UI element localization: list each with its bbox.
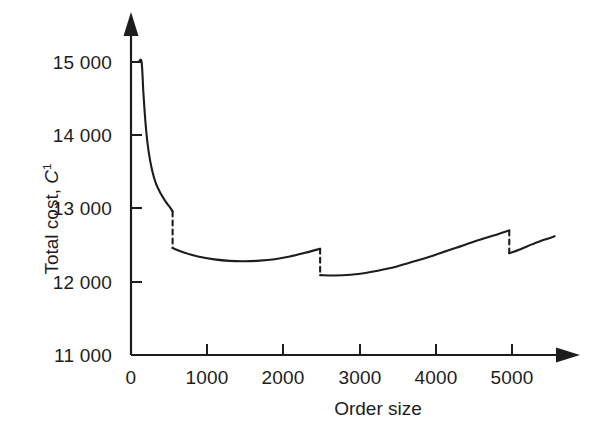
y-axis-ticks	[131, 62, 142, 282]
x-tick-label-1000: 1000	[185, 368, 228, 387]
x-axis-title: Order size	[268, 398, 488, 420]
y-axis-title-variable: C	[41, 170, 62, 184]
x-axis-ticks	[207, 344, 512, 355]
x-tick-label-0: 0	[126, 368, 137, 387]
y-tick-label-15000: 15 000	[2, 53, 112, 72]
x-axis-arrow-icon	[556, 348, 580, 363]
y-axis-title-superscript: 1	[40, 163, 53, 170]
x-tick-label-5000: 5000	[490, 368, 533, 387]
y-axis-title: Total cost, C1	[41, 119, 63, 319]
cost-curve-segment	[509, 236, 554, 253]
x-tick-label-2000: 2000	[261, 368, 304, 387]
cost-curve-group	[139, 60, 555, 276]
y-axis-arrow-icon	[124, 12, 139, 36]
x-tick-label-3000: 3000	[338, 368, 381, 387]
y-axis-title-text: Total cost,	[41, 189, 62, 275]
chart-figure: 15 000 14 000 13 000 12 000 11 000 0 100…	[0, 0, 592, 442]
axes-group	[124, 12, 581, 363]
x-tick-label-4000: 4000	[414, 368, 457, 387]
cost-curve-segment	[320, 230, 509, 275]
cost-curve-segment	[139, 60, 173, 212]
y-tick-label-11000: 11 000	[2, 346, 112, 365]
cost-curve-segment	[173, 248, 321, 261]
